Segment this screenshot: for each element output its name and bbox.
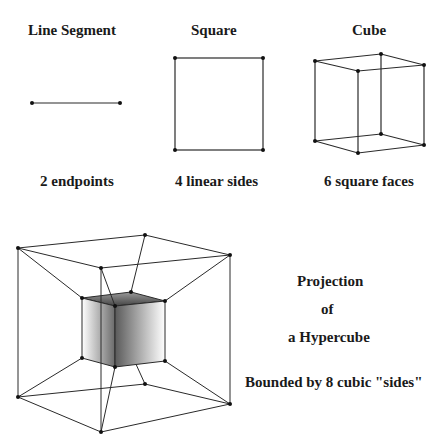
- panel-title-line-segment: Line Segment: [28, 22, 116, 39]
- panel-title-square: Square: [191, 22, 237, 39]
- hypercube-title-line1: Projection: [297, 273, 363, 290]
- panel-caption-cube: 6 square faces: [324, 173, 414, 190]
- square-vertices: [173, 56, 265, 152]
- panel-caption-line-segment: 2 endpoints: [40, 173, 114, 190]
- panel-title-cube: Cube: [352, 22, 386, 39]
- hypercube-title-line2: of: [321, 301, 334, 318]
- cube-figure: [315, 54, 424, 153]
- panel-caption-square: 4 linear sides: [175, 173, 258, 190]
- hypercube-title-line3: a Hypercube: [288, 329, 370, 346]
- hypercube-figure: [16, 233, 232, 434]
- square-figure: [175, 58, 263, 150]
- hypercube-caption: Bounded by 8 cubic "sides": [245, 374, 423, 391]
